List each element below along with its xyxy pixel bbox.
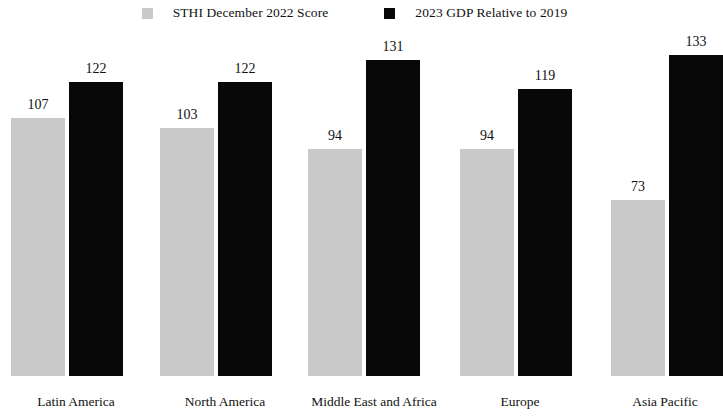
bar-value-label: 73 — [631, 180, 645, 194]
bar-value-label: 103 — [177, 108, 198, 122]
bar-slot: 131 — [366, 24, 420, 376]
category-label: North America — [185, 394, 266, 409]
bar-value-label: 107 — [28, 98, 49, 112]
bar-gdp — [669, 55, 723, 376]
bar-slot: 103 — [160, 24, 214, 376]
legend-swatch-gdp-icon — [384, 8, 395, 19]
bar-sthi — [460, 149, 514, 376]
bar-value-label: 119 — [535, 69, 555, 83]
bar-slot: 122 — [218, 24, 272, 376]
plot-area: 107122103122941319411973133 — [0, 24, 709, 376]
bar-slot: 122 — [69, 24, 123, 376]
bar-value-label: 122 — [86, 62, 107, 76]
bar-group: 94119 — [460, 24, 572, 376]
bar-gdp — [518, 89, 572, 376]
category-label: Latin America — [37, 394, 115, 409]
bar-gdp — [366, 60, 420, 376]
category-label: Middle East and Africa — [311, 394, 437, 409]
bar-sthi — [611, 200, 665, 376]
bar-value-label: 94 — [480, 129, 494, 143]
bar-sthi — [308, 149, 362, 376]
bar-value-label: 94 — [328, 129, 342, 143]
legend-swatch-sthi-icon — [142, 8, 153, 19]
bar-group: 94131 — [308, 24, 420, 376]
bar-group: 103122 — [160, 24, 272, 376]
bar-value-label: 131 — [383, 40, 404, 54]
bar-slot: 94 — [308, 24, 362, 376]
legend-label-gdp: 2023 GDP Relative to 2019 — [415, 6, 567, 20]
bar-gdp — [69, 82, 123, 376]
category-label: Europe — [501, 394, 540, 409]
chart-legend: STHI December 2022 Score 2023 GDP Relati… — [0, 2, 709, 24]
bar-group: 73133 — [611, 24, 723, 376]
bar-value-label: 133 — [686, 35, 707, 49]
bar-value-label: 122 — [235, 62, 256, 76]
bar-gdp — [218, 82, 272, 376]
bar-group: 107122 — [11, 24, 123, 376]
bar-slot: 119 — [518, 24, 572, 376]
category-axis: Latin AmericaNorth AmericaMiddle East an… — [0, 380, 709, 417]
bar-slot: 94 — [460, 24, 514, 376]
legend-label-sthi: STHI December 2022 Score — [173, 6, 329, 20]
bar-slot: 73 — [611, 24, 665, 376]
bar-slot: 107 — [11, 24, 65, 376]
category-label: Asia Pacific — [632, 394, 698, 409]
bar-sthi — [11, 118, 65, 376]
legend-item-gdp: 2023 GDP Relative to 2019 — [384, 6, 567, 20]
legend-item-sthi: STHI December 2022 Score — [142, 6, 329, 20]
bar-slot: 133 — [669, 24, 723, 376]
bar-sthi — [160, 128, 214, 376]
